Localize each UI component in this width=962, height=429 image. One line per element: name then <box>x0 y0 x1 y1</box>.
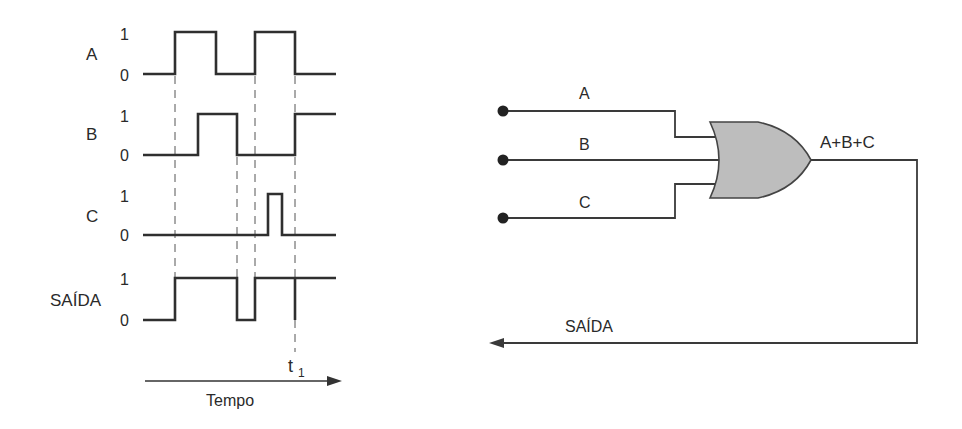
time-axis: Tempo <box>145 376 342 409</box>
signal-output-waveform <box>143 278 336 320</box>
diagram-canvas: A 1 0 B 1 0 C 1 0 SAÍDA 1 0 t <box>0 0 962 429</box>
signal-a-waveform <box>143 32 336 74</box>
dashed-guides <box>175 76 295 352</box>
signal-b: B 1 0 <box>86 108 336 164</box>
output-label: SAÍDA <box>565 317 613 335</box>
signal-a: A 1 0 <box>86 26 336 84</box>
gate-output-expression: A+B+C <box>820 133 875 152</box>
signal-c-low-label: 0 <box>120 227 129 244</box>
timing-diagram: A 1 0 B 1 0 C 1 0 SAÍDA 1 0 t <box>50 26 342 409</box>
output-arrow-icon <box>489 338 504 348</box>
signal-b-waveform <box>143 114 336 155</box>
input-terminal-c <box>498 213 509 224</box>
input-label-b: B <box>579 136 590 153</box>
output-wire <box>500 160 917 343</box>
signal-c: C 1 0 <box>86 188 336 244</box>
signal-c-waveform <box>143 194 336 235</box>
signal-b-low-label: 0 <box>120 147 129 164</box>
time-marker-t1: t 1 <box>288 356 305 380</box>
or-gate-icon <box>710 122 811 198</box>
signal-a-label: A <box>86 45 98 64</box>
time-axis-arrow-icon <box>327 376 342 386</box>
input-label-c: C <box>579 194 591 211</box>
input-label-a: A <box>579 85 590 102</box>
time-marker-label: t <box>288 356 293 376</box>
signal-c-high-label: 1 <box>120 188 129 205</box>
signal-output: SAÍDA 1 0 <box>50 271 336 329</box>
signal-b-high-label: 1 <box>120 108 129 125</box>
time-marker-subscript: 1 <box>298 366 305 380</box>
signal-b-label: B <box>86 125 97 144</box>
signal-output-low-label: 0 <box>120 312 129 329</box>
input-wire-a <box>503 111 716 137</box>
signal-output-high-label: 1 <box>120 271 129 288</box>
signal-c-label: C <box>86 207 98 226</box>
input-terminal-b <box>498 155 509 166</box>
or-gate-circuit: A B C A+B+C SAÍDA <box>489 85 917 348</box>
signal-a-high-label: 1 <box>120 26 129 43</box>
signal-output-label: SAÍDA <box>50 291 102 310</box>
input-terminal-a <box>498 106 509 117</box>
time-axis-label: Tempo <box>206 392 254 409</box>
signal-a-low-label: 0 <box>120 67 129 84</box>
input-wire-c <box>503 184 716 218</box>
